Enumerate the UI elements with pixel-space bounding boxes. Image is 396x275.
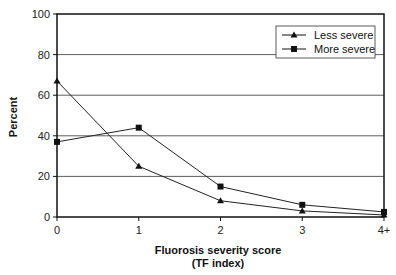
x-tick-label: 1 xyxy=(136,224,142,236)
x-tick-label: 3 xyxy=(299,224,305,236)
y-tick-label: 20 xyxy=(38,170,50,182)
y-tick-label: 40 xyxy=(38,130,50,142)
series-less-severe xyxy=(54,77,388,217)
legend-label: More severe xyxy=(314,43,375,55)
triangle-marker-icon xyxy=(54,77,61,83)
x-tick-label: 0 xyxy=(54,224,60,236)
square-marker-icon xyxy=(54,139,60,145)
line-chart: 020406080100 01234+ Percent Fluorosis se… xyxy=(0,0,396,275)
legend-label: Less severe xyxy=(314,29,373,41)
square-marker-icon xyxy=(136,125,142,131)
x-axis-ticks: 01234+ xyxy=(54,217,390,236)
y-tick-label: 100 xyxy=(32,8,50,20)
x-axis-title: Fluorosis severity score xyxy=(155,244,282,256)
y-tick-label: 0 xyxy=(44,211,50,223)
square-marker-icon xyxy=(291,46,297,52)
gridlines xyxy=(57,55,384,177)
square-marker-icon xyxy=(381,209,387,215)
data-series xyxy=(54,77,388,217)
y-tick-label: 80 xyxy=(38,49,50,61)
x-axis-title-line2: (TF index) xyxy=(192,257,245,269)
square-marker-icon xyxy=(218,184,224,190)
x-tick-label: 2 xyxy=(217,224,223,236)
y-tick-label: 60 xyxy=(38,89,50,101)
legend: Less severe More severe xyxy=(276,26,375,58)
square-marker-icon xyxy=(299,202,305,208)
y-axis-ticks: 020406080100 xyxy=(32,8,57,223)
y-axis-title: Percent xyxy=(7,96,19,137)
x-tick-label: 4+ xyxy=(378,224,391,236)
